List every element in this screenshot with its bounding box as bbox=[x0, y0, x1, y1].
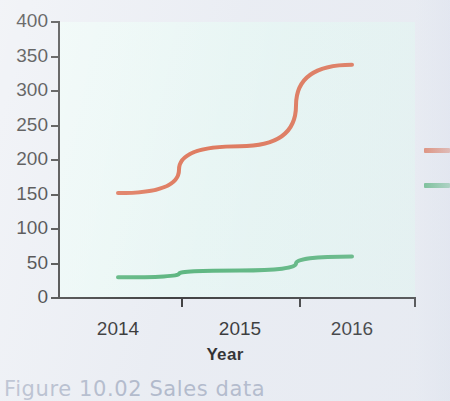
y-axis-tick-label: 100 bbox=[0, 217, 48, 239]
x-axis-title: Year bbox=[206, 345, 243, 364]
x-axis-tick-label: 2014 bbox=[83, 318, 153, 340]
y-axis-tick-label: 150 bbox=[0, 183, 48, 205]
legend-swatch-orange[interactable] bbox=[424, 148, 450, 153]
x-axis-tick bbox=[299, 298, 301, 307]
y-axis-tick-label: 250 bbox=[0, 114, 48, 136]
y-axis-tick bbox=[51, 56, 59, 58]
y-axis-tick-label: 400 bbox=[0, 10, 48, 32]
y-axis-tick bbox=[51, 21, 59, 23]
y-axis-tick-label: 200 bbox=[0, 148, 48, 170]
x-axis-tick-label: 2016 bbox=[317, 318, 387, 340]
plot-area bbox=[60, 22, 415, 298]
y-axis-tick-label: 0 bbox=[0, 286, 48, 308]
x-axis-title-wrap: Year bbox=[0, 345, 450, 365]
y-axis-tick bbox=[51, 125, 59, 127]
x-axis-tick bbox=[414, 298, 416, 307]
y-axis-tick bbox=[51, 228, 59, 230]
figure-caption: Figure 10.02 Sales data bbox=[4, 377, 265, 401]
y-axis-tick-label: 50 bbox=[0, 252, 48, 274]
y-axis-tick bbox=[51, 159, 59, 161]
x-axis-line bbox=[58, 297, 416, 299]
x-axis-tick bbox=[181, 298, 183, 307]
page-right-margin bbox=[416, 0, 450, 401]
y-axis-tick-label: 350 bbox=[0, 45, 48, 67]
y-axis-tick bbox=[51, 297, 59, 299]
y-axis-tick-label: 300 bbox=[0, 79, 48, 101]
y-axis-tick bbox=[51, 194, 59, 196]
legend-swatch-green[interactable] bbox=[424, 183, 450, 188]
figure-root: 050100150200250300350400 201420152016 Ye… bbox=[0, 0, 450, 401]
x-axis-tick-label: 2015 bbox=[205, 318, 275, 340]
y-axis-tick bbox=[51, 263, 59, 265]
plot-sheen bbox=[60, 22, 415, 298]
y-axis-tick bbox=[51, 90, 59, 92]
